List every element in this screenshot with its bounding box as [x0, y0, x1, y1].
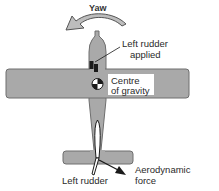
aerodynamic-force-label-2: force: [135, 175, 156, 186]
vertical-fin: [95, 120, 100, 158]
aerodynamic-force-label-1: Aerodynamic: [135, 164, 191, 175]
centre-of-gravity-icon: [92, 79, 103, 90]
yaw-diagram: Yaw Left rudder applied Centre of gravit…: [0, 0, 219, 191]
yaw-label: Yaw: [89, 3, 108, 13]
left-rudder-applied-label-2: applied: [130, 49, 161, 60]
left-rudder-label: Left rudder: [62, 175, 108, 186]
yaw-arrow-icon: [66, 14, 126, 30]
cog-label-2: of gravity: [111, 85, 150, 96]
left-rudder-applied-label-1: Left rudder: [122, 38, 168, 49]
